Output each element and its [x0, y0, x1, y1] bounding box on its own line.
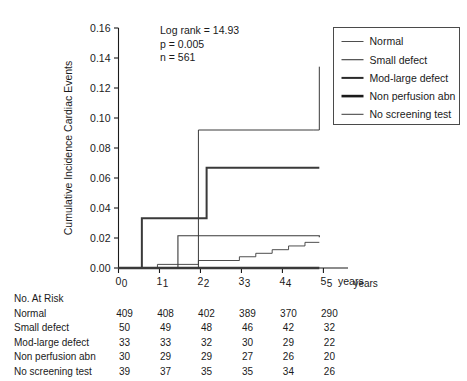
legend-label: Mod-large defect [370, 72, 449, 84]
y-tick-label: 0.14 [90, 52, 111, 64]
risk-table-cell: 290 [321, 308, 338, 319]
annotation-line: Log rank = 14.93 [160, 24, 239, 36]
y-tick-label: 0.00 [90, 262, 111, 274]
risk-table-column-header: 5 [327, 278, 333, 289]
risk-table-cell: 409 [116, 308, 133, 319]
y-tick-label: 0.08 [90, 142, 111, 154]
chart-canvas: 0.000.020.040.060.080.100.120.140.16 012… [0, 0, 467, 381]
risk-table-cell: 389 [239, 308, 256, 319]
x-tick-label: 3 [239, 275, 245, 287]
x-tick-label: 5 [320, 275, 326, 287]
annotation-line: n = 561 [160, 51, 195, 63]
risk-table-row-label: Normal [14, 308, 46, 319]
y-axis: 0.000.020.040.060.080.100.120.140.16 [90, 22, 118, 274]
risk-table-row-label: Non perfusion abn [14, 351, 96, 362]
risk-table-cell: 50 [119, 322, 131, 333]
risk-table-cell: 30 [242, 337, 254, 348]
risk-table-cell: 46 [242, 322, 254, 333]
risk-table-row-label: Small defect [14, 322, 69, 333]
risk-table-cell: 408 [157, 308, 174, 319]
risk-table-cell: 402 [198, 308, 215, 319]
y-tick-label: 0.10 [90, 112, 111, 124]
x-tick-label: 1 [157, 275, 163, 287]
curve-small-defect [119, 236, 320, 268]
legend: NormalSmall defectMod-large defectNon pe… [334, 28, 460, 125]
risk-table-cell: 26 [324, 366, 336, 377]
risk-table-cell: 27 [242, 351, 254, 362]
x-tick-label: 2 [198, 275, 204, 287]
risk-table-title: No. At Risk [14, 293, 64, 304]
legend-label: Small defect [370, 54, 428, 66]
y-tick-label: 0.06 [90, 172, 111, 184]
risk-table-cell: 30 [119, 351, 131, 362]
risk-table-cell: 32 [201, 337, 213, 348]
risk-table-cell: 48 [201, 322, 213, 333]
x-tick-label: 4 [280, 275, 286, 287]
risk-table-cell: 29 [283, 337, 295, 348]
risk-table-cell: 26 [283, 351, 295, 362]
risk-table-cell: 33 [160, 337, 172, 348]
risk-table-cell: 35 [242, 366, 254, 377]
risk-table-column-header: 1 [163, 278, 169, 289]
risk-table-row-label: Mod-large defect [14, 337, 89, 348]
y-axis-title: Cumulative Incidence Cardiac Events [62, 61, 74, 236]
x-tick-label: 0 [116, 275, 122, 287]
y-axis-title-text: Cumulative Incidence Cardiac Events [62, 61, 74, 236]
y-tick-label: 0.12 [90, 82, 111, 94]
risk-table-unit-label: years [353, 278, 377, 289]
risk-table-cell: 42 [283, 322, 295, 333]
risk-table-column-header: 2 [204, 278, 210, 289]
risk-table-cell: 29 [160, 351, 172, 362]
statistics-annotation: Log rank = 14.93p = 0.005n = 561 [160, 24, 239, 63]
risk-table-cell: 39 [119, 366, 131, 377]
risk-table: 012345yearsNo. At RiskNormal409408402389… [14, 278, 378, 377]
y-tick-label: 0.02 [90, 232, 111, 244]
annotation-line: p = 0.005 [160, 38, 204, 50]
risk-table-cell: 35 [201, 366, 213, 377]
legend-label: Normal [370, 35, 404, 47]
curve-series-group [119, 67, 320, 268]
risk-table-row-label: No screening test [14, 366, 92, 377]
y-tick-label: 0.16 [90, 22, 111, 34]
risk-table-cell: 34 [283, 366, 295, 377]
curve-normal [119, 242, 320, 268]
legend-label: Non perfusion abn [370, 90, 456, 102]
risk-table-cell: 32 [324, 322, 336, 333]
risk-table-cell: 29 [201, 351, 213, 362]
survival-chart: 0.000.020.040.060.080.100.120.140.16 012… [0, 0, 467, 381]
risk-table-column-header: 0 [122, 278, 128, 289]
risk-table-cell: 33 [119, 337, 131, 348]
risk-table-cell: 20 [324, 351, 336, 362]
risk-table-cell: 22 [324, 337, 336, 348]
risk-table-cell: 370 [280, 308, 297, 319]
risk-table-column-header: 3 [245, 278, 251, 289]
risk-table-cell: 49 [160, 322, 172, 333]
legend-label: No screening test [370, 108, 452, 120]
risk-table-column-header: 4 [286, 278, 292, 289]
y-tick-label: 0.04 [90, 202, 111, 214]
risk-table-cell: 37 [160, 366, 172, 377]
curve-mod-large-defect [119, 168, 320, 268]
